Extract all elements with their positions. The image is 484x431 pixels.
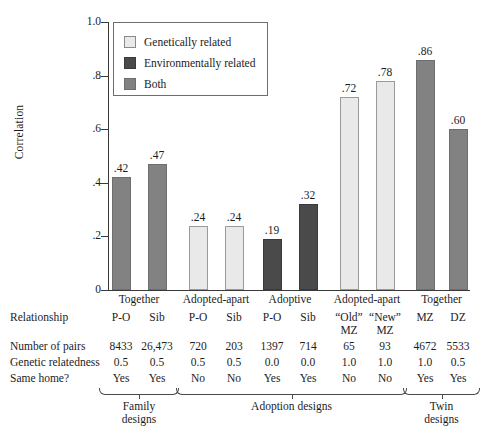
legend-label-both: Both [144,78,166,90]
table-cell: 0.5 [428,356,484,368]
y-axis-title: Correlation [13,77,25,187]
bar [148,164,167,290]
y-tick-label-wrap: .2 [60,230,101,241]
table-row-label: Genetic relatedness [10,356,100,368]
legend-item-both: Both [124,73,267,94]
bar-value-label: .47 [137,149,177,161]
y-tick-label: .2 [67,230,101,241]
data-table: TogetherAdopted-apartAdoptiveAdopted-apa… [0,293,476,431]
y-tick-label: .6 [67,123,101,134]
bar-value-label: .32 [288,189,328,201]
bar [225,226,244,290]
legend-swatch-genetically-related-icon [124,36,136,48]
bar-value-label: .72 [329,82,369,94]
design-bracket [99,388,179,395]
bar-value-label: .78 [365,66,405,78]
y-tick-mark [101,183,108,184]
x-axis-line [108,290,470,291]
bar [416,60,435,290]
y-tick-mark [101,76,108,77]
y-tick-mark [101,290,108,291]
bar-value-label: .19 [252,224,292,236]
table-cell: Yes [428,372,484,384]
group-header: Together [382,293,484,305]
bar-value-label: .24 [178,211,218,223]
design-bracket-label: Twindesigns [372,400,484,426]
legend-swatch-environmentally-related-icon [124,57,136,69]
design-bracket-nub [442,395,443,399]
y-tick-label-wrap: .6 [60,123,101,134]
design-bracket-nub [292,395,293,399]
bar [112,177,131,290]
legend-label-genetically-related: Genetically related [144,36,231,48]
y-tick-mark [101,236,108,237]
y-tick-mark [101,22,108,23]
bar-value-label: .86 [405,45,445,57]
bar-value-label: .60 [438,114,478,126]
table-row-label: Number of pairs [10,340,85,352]
table-row-label: Same home? [10,372,69,384]
bar [263,239,282,290]
y-tick-label: .8 [67,70,101,81]
bar [449,129,468,290]
table-row-label: Relationship [10,311,68,323]
y-tick-mark [101,129,108,130]
bar-value-label: .24 [214,211,254,223]
bar [189,226,208,290]
design-bracket-nub [139,395,140,399]
bar [299,204,318,290]
bar-value-label: .42 [101,162,141,174]
bar [340,97,359,290]
bar [376,81,395,290]
table-cell: 5533 [428,340,484,352]
design-bracket-label: Familydesigns [69,400,209,426]
design-bracket [176,388,407,395]
y-tick-label-wrap: .8 [60,70,101,81]
y-tick-label-wrap: 1.0 [60,16,101,27]
y-tick-label: .4 [67,177,101,188]
table-cell-line2: MZ [355,324,415,336]
legend-item-environmentally-related: Environmentally related [124,52,267,73]
y-tick-label-wrap: .4 [60,177,101,188]
chart-legend: Genetically related Environmentally rela… [113,22,268,96]
y-tick-label: 1.0 [67,16,101,27]
legend-swatch-both-icon [124,78,136,90]
design-bracket-label: Adoption designs [222,400,362,413]
table-cell: DZ [428,311,484,323]
design-bracket [403,388,480,395]
legend-label-environmentally-related: Environmentally related [144,57,255,69]
legend-item-genetically-related: Genetically related [124,31,267,52]
